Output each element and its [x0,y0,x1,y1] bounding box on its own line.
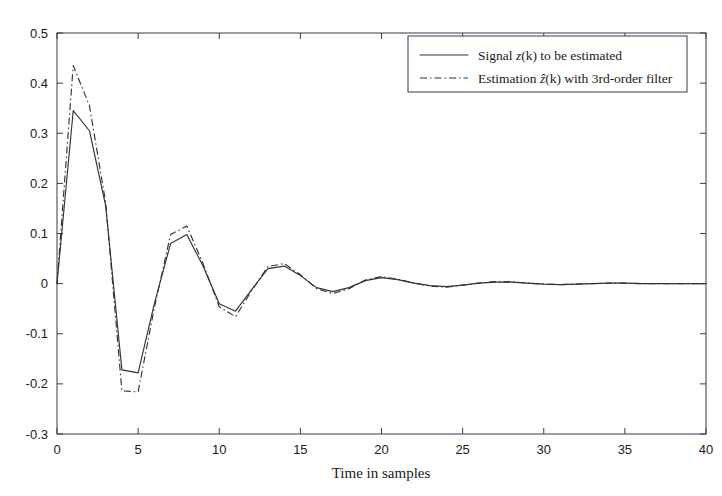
legend-label-signal: Signal z(k) to be estimated [478,48,622,63]
y-tick-label: -0.2 [26,376,48,391]
plot-frame [57,33,706,434]
y-tick-label: 0.1 [30,226,48,241]
series-signal-line [57,111,706,373]
y-tick-label: 0 [41,276,48,291]
x-tick-label: 0 [53,442,60,457]
y-axis-ticks [57,33,706,434]
x-tick-label: 20 [374,442,388,457]
legend-label-estimation: Estimation ẑ(k) with 3rd-order filter [478,71,673,86]
x-tick-label: 15 [293,442,307,457]
x-tick-label: 30 [537,442,551,457]
y-tick-label: -0.3 [26,427,48,442]
x-axis-tick-labels: 0510152025303540 [53,442,713,457]
x-tick-label: 35 [618,442,632,457]
y-tick-label: 0.5 [30,26,48,41]
x-tick-label: 25 [455,442,469,457]
series-estimation-line [57,66,706,392]
x-axis-title: Time in samples [332,465,431,481]
signal-estimation-chart: 0510152025303540 -0.3-0.2-0.100.10.20.30… [0,0,722,496]
y-tick-label: 0.2 [30,176,48,191]
y-tick-label: -0.1 [26,326,48,341]
legend: Signal z(k) to be estimated Estimation ẑ… [408,36,687,92]
x-tick-label: 10 [212,442,226,457]
x-tick-label: 40 [699,442,713,457]
figure-container: 0510152025303540 -0.3-0.2-0.100.10.20.30… [0,0,722,496]
x-tick-label: 5 [135,442,142,457]
x-axis-ticks [57,33,706,434]
y-tick-label: 0.4 [30,76,48,91]
y-tick-label: 0.3 [30,126,48,141]
y-axis-tick-labels: -0.3-0.2-0.100.10.20.30.40.5 [26,26,48,442]
